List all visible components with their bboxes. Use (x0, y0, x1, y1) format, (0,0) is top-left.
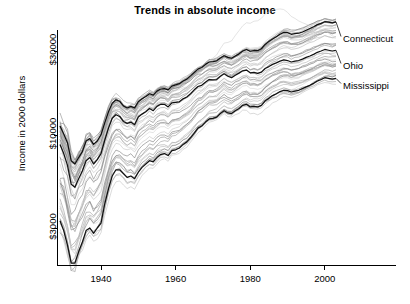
leader-line-mississippi (336, 78, 341, 83)
series-label-ohio: Ohio (343, 60, 363, 71)
annotation-leaders (336, 22, 341, 84)
x-tick-label: 2000 (295, 273, 355, 284)
y-tick-label: $30000 (46, 20, 57, 80)
state-income-line (60, 32, 336, 180)
gray-series-group (60, 9, 336, 272)
y-tick-label: $3000 (46, 197, 57, 257)
state-income-line (60, 78, 336, 265)
x-tick-label: 1940 (71, 273, 131, 284)
leader-line-ohio (336, 50, 341, 63)
state-income-line (60, 78, 336, 272)
state-income-line (60, 76, 336, 263)
plot-area (0, 0, 410, 304)
x-tick-label: 1960 (146, 273, 206, 284)
series-label-connecticut: Connecticut (343, 33, 393, 44)
x-tick-label: 1980 (220, 273, 280, 284)
y-tick-label: $10000 (46, 104, 57, 164)
series-label-mississippi: Mississippi (343, 80, 389, 91)
leader-line-connecticut (336, 22, 341, 37)
chart-root: Trends in absolute income Income in 2000… (0, 0, 410, 304)
